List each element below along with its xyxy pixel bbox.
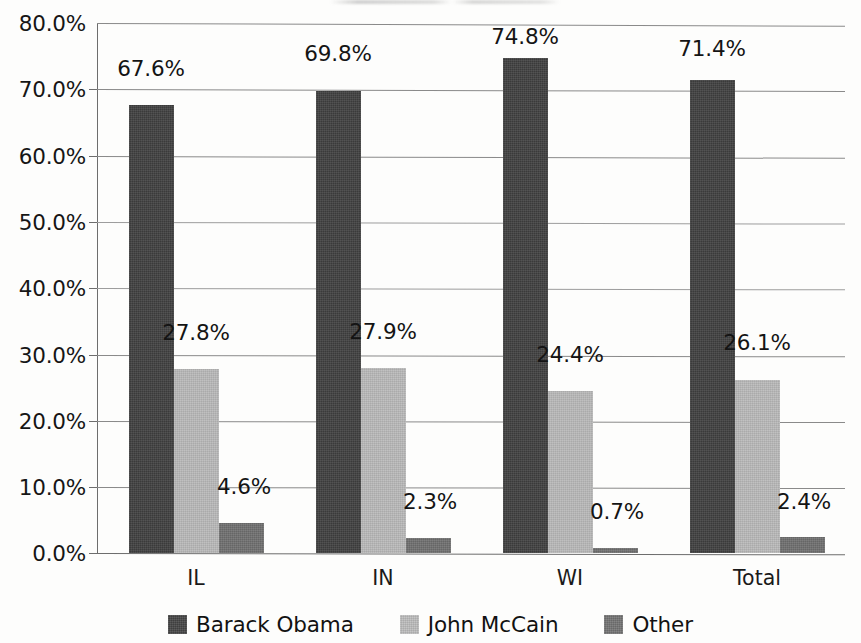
y-axis-tick-label-20: 20.0% [2,409,86,434]
legend-item-other[interactable]: Other [604,612,693,637]
bar-mccain-WI[interactable] [548,391,593,553]
data-label-other-IL: 4.6% [217,474,271,499]
bar-other-IN[interactable] [406,538,451,553]
y-axis-tick-label-50: 50.0% [2,210,86,235]
data-label-obama-IN: 69.8% [304,41,371,66]
y-axis-tick-label-40: 40.0% [2,276,86,301]
y-axis-tick-label-0: 0.0% [2,541,86,566]
bar-other-Total[interactable] [780,537,825,553]
legend-swatch-dark-gray-icon [168,615,187,634]
data-label-obama-Total: 71.4% [678,36,745,61]
grouped-bar-chart: 80.0% 70.0% 60.0% 50.0% 40.0% 30.0% 20.0… [0,0,861,643]
data-label-mccain-IL: 27.8% [162,320,229,345]
bar-mccain-IN[interactable] [361,368,406,553]
bar-obama-WI[interactable] [503,58,548,554]
data-label-other-IN: 2.3% [403,489,457,514]
bar-other-WI[interactable] [593,548,638,553]
data-label-obama-WI: 74.8% [491,24,558,49]
y-axis-tick-labels: 80.0% 70.0% 60.0% 50.0% 40.0% 30.0% 20.0… [0,0,86,643]
x-axis-category-label-Total: Total [733,566,781,590]
y-axis-tick-label-30: 30.0% [2,343,86,368]
y-axis-tick-label-80: 80.0% [2,11,86,36]
x-axis-category-label-WI: WI [557,566,583,590]
x-axis-category-label-IL: IL [187,566,204,590]
legend-label-barack-obama: Barack Obama [196,612,354,637]
legend-label-other: Other [632,612,693,637]
legend-swatch-medium-gray-icon [604,615,623,634]
x-axis-line [97,553,845,555]
y-axis-tick-label-10: 10.0% [2,475,86,500]
y-axis-tick-label-60: 60.0% [2,144,86,169]
legend-item-barack-obama[interactable]: Barack Obama [168,612,354,637]
data-label-mccain-Total: 26.1% [723,330,790,355]
bar-mccain-IL[interactable] [174,369,219,553]
y-axis-tick-label-70: 70.0% [2,77,86,102]
data-label-obama-IL: 67.6% [117,56,184,81]
bar-obama-Total[interactable] [690,80,735,553]
legend-label-john-mccain: John McCain [428,612,559,637]
chart-legend: Barack Obama John McCain Other [0,607,861,641]
bar-other-IL[interactable] [219,523,264,554]
bar-mccain-Total[interactable] [735,380,780,553]
data-label-mccain-WI: 24.4% [536,342,603,367]
x-axis-category-label-IN: IN [372,566,393,590]
data-label-other-Total: 2.4% [777,489,831,514]
plot-area [97,23,845,553]
data-label-other-WI: 0.7% [590,499,644,524]
legend-swatch-light-gray-icon [400,615,419,634]
gridline-80 [97,23,845,27]
data-label-mccain-IN: 27.9% [349,319,416,344]
legend-item-john-mccain[interactable]: John McCain [400,612,559,637]
